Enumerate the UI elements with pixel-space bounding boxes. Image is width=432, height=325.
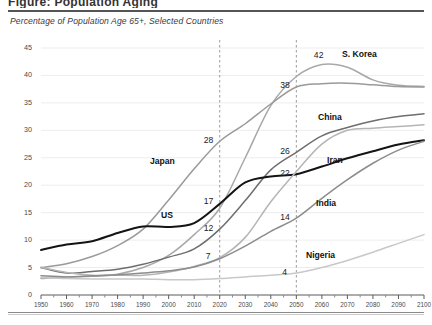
y-tick-35: 35 bbox=[14, 99, 32, 107]
x-tick-2050: 2050 bbox=[283, 301, 309, 309]
annotation-china-12: 12 bbox=[204, 224, 214, 233]
y-tick-30: 30 bbox=[14, 126, 32, 134]
series-label-us: US bbox=[161, 211, 173, 220]
annotation-india-14: 14 bbox=[280, 213, 290, 222]
series-label-india: India bbox=[316, 199, 336, 208]
x-tick-1980: 1980 bbox=[105, 301, 131, 309]
series-label-china: China bbox=[318, 113, 342, 122]
x-tick-2070: 2070 bbox=[334, 301, 360, 309]
annotation-us-17: 17 bbox=[204, 197, 214, 206]
y-tick-10: 10 bbox=[14, 236, 32, 244]
annotation-nigeria-4: 4 bbox=[282, 268, 287, 277]
y-tick-45: 45 bbox=[14, 44, 32, 52]
y-tick-5: 5 bbox=[14, 264, 32, 272]
y-tick-0: 0 bbox=[14, 291, 32, 299]
x-tick-2100: 2100 bbox=[411, 301, 432, 309]
series-label-nigeria: Nigeria bbox=[306, 251, 335, 260]
x-tick-2030: 2030 bbox=[232, 301, 258, 309]
annotation-japan-38: 38 bbox=[280, 81, 290, 90]
annotation-china-26: 26 bbox=[280, 147, 290, 156]
annotation-japan-28: 28 bbox=[204, 136, 214, 145]
x-tick-1960: 1960 bbox=[54, 301, 80, 309]
x-tick-2000: 2000 bbox=[156, 301, 182, 309]
annotation-skorea-42: 42 bbox=[314, 51, 324, 60]
x-tick-2080: 2080 bbox=[360, 301, 386, 309]
x-tick-1990: 1990 bbox=[130, 301, 156, 309]
y-tick-25: 25 bbox=[14, 154, 32, 162]
series-label-skorea: S. Korea bbox=[342, 50, 377, 59]
x-tick-2010: 2010 bbox=[181, 301, 207, 309]
x-tick-2040: 2040 bbox=[258, 301, 284, 309]
bottom-divider-secondary bbox=[8, 314, 424, 315]
x-tick-2060: 2060 bbox=[309, 301, 335, 309]
chart-page: Figure: Population Aging Percentage of P… bbox=[0, 0, 432, 325]
y-tick-15: 15 bbox=[14, 209, 32, 217]
annotation-iran-7: 7 bbox=[206, 252, 211, 261]
annotation-us-22: 22 bbox=[280, 169, 290, 178]
x-tick-1950: 1950 bbox=[28, 301, 54, 309]
chart-plot-area: 051015202530354045 195019601970198019902… bbox=[0, 0, 432, 325]
x-tick-1970: 1970 bbox=[79, 301, 105, 309]
y-tick-40: 40 bbox=[14, 71, 32, 79]
series-label-iran: Iran bbox=[327, 156, 343, 165]
series-label-japan: Japan bbox=[150, 157, 175, 166]
y-tick-20: 20 bbox=[14, 181, 32, 189]
x-tick-2020: 2020 bbox=[207, 301, 233, 309]
bottom-divider bbox=[8, 312, 424, 313]
x-tick-2090: 2090 bbox=[385, 301, 411, 309]
